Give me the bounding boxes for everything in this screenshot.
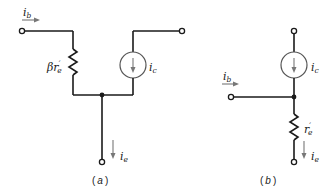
resistor-beta-re-a	[69, 49, 77, 75]
collector-terminal-a	[179, 28, 184, 33]
diagram-b: ic ib r′e ie (b)	[222, 28, 320, 186]
base-terminal-a	[19, 28, 24, 33]
emitter-current-label-a: ie	[120, 150, 129, 164]
emitter-current-label-b: ie	[311, 150, 320, 164]
caption-b: (b)	[260, 175, 276, 186]
caption-a: (a)	[92, 175, 108, 186]
diagram-a: ib βr′e ic	[19, 6, 184, 186]
base-terminal-b	[228, 94, 233, 99]
collector-current-label-b: ic	[311, 61, 320, 75]
emitter-current-arrow-a	[111, 140, 116, 159]
emitter-current-arrow-b	[302, 141, 307, 159]
collector-terminal-b	[291, 28, 296, 33]
resistor-re-b	[290, 114, 298, 140]
resistor-label-a: βr′e	[46, 59, 62, 75]
emitter-terminal-b	[291, 159, 296, 164]
base-current-label-b: ib	[223, 70, 232, 84]
collector-current-label-a: ic	[149, 61, 158, 75]
circuit-diagrams: ib βr′e ic	[0, 0, 336, 193]
base-current-label-a: ib	[23, 6, 32, 20]
emitter-terminal-a	[99, 159, 104, 164]
resistor-label-b: r′e	[304, 121, 313, 137]
